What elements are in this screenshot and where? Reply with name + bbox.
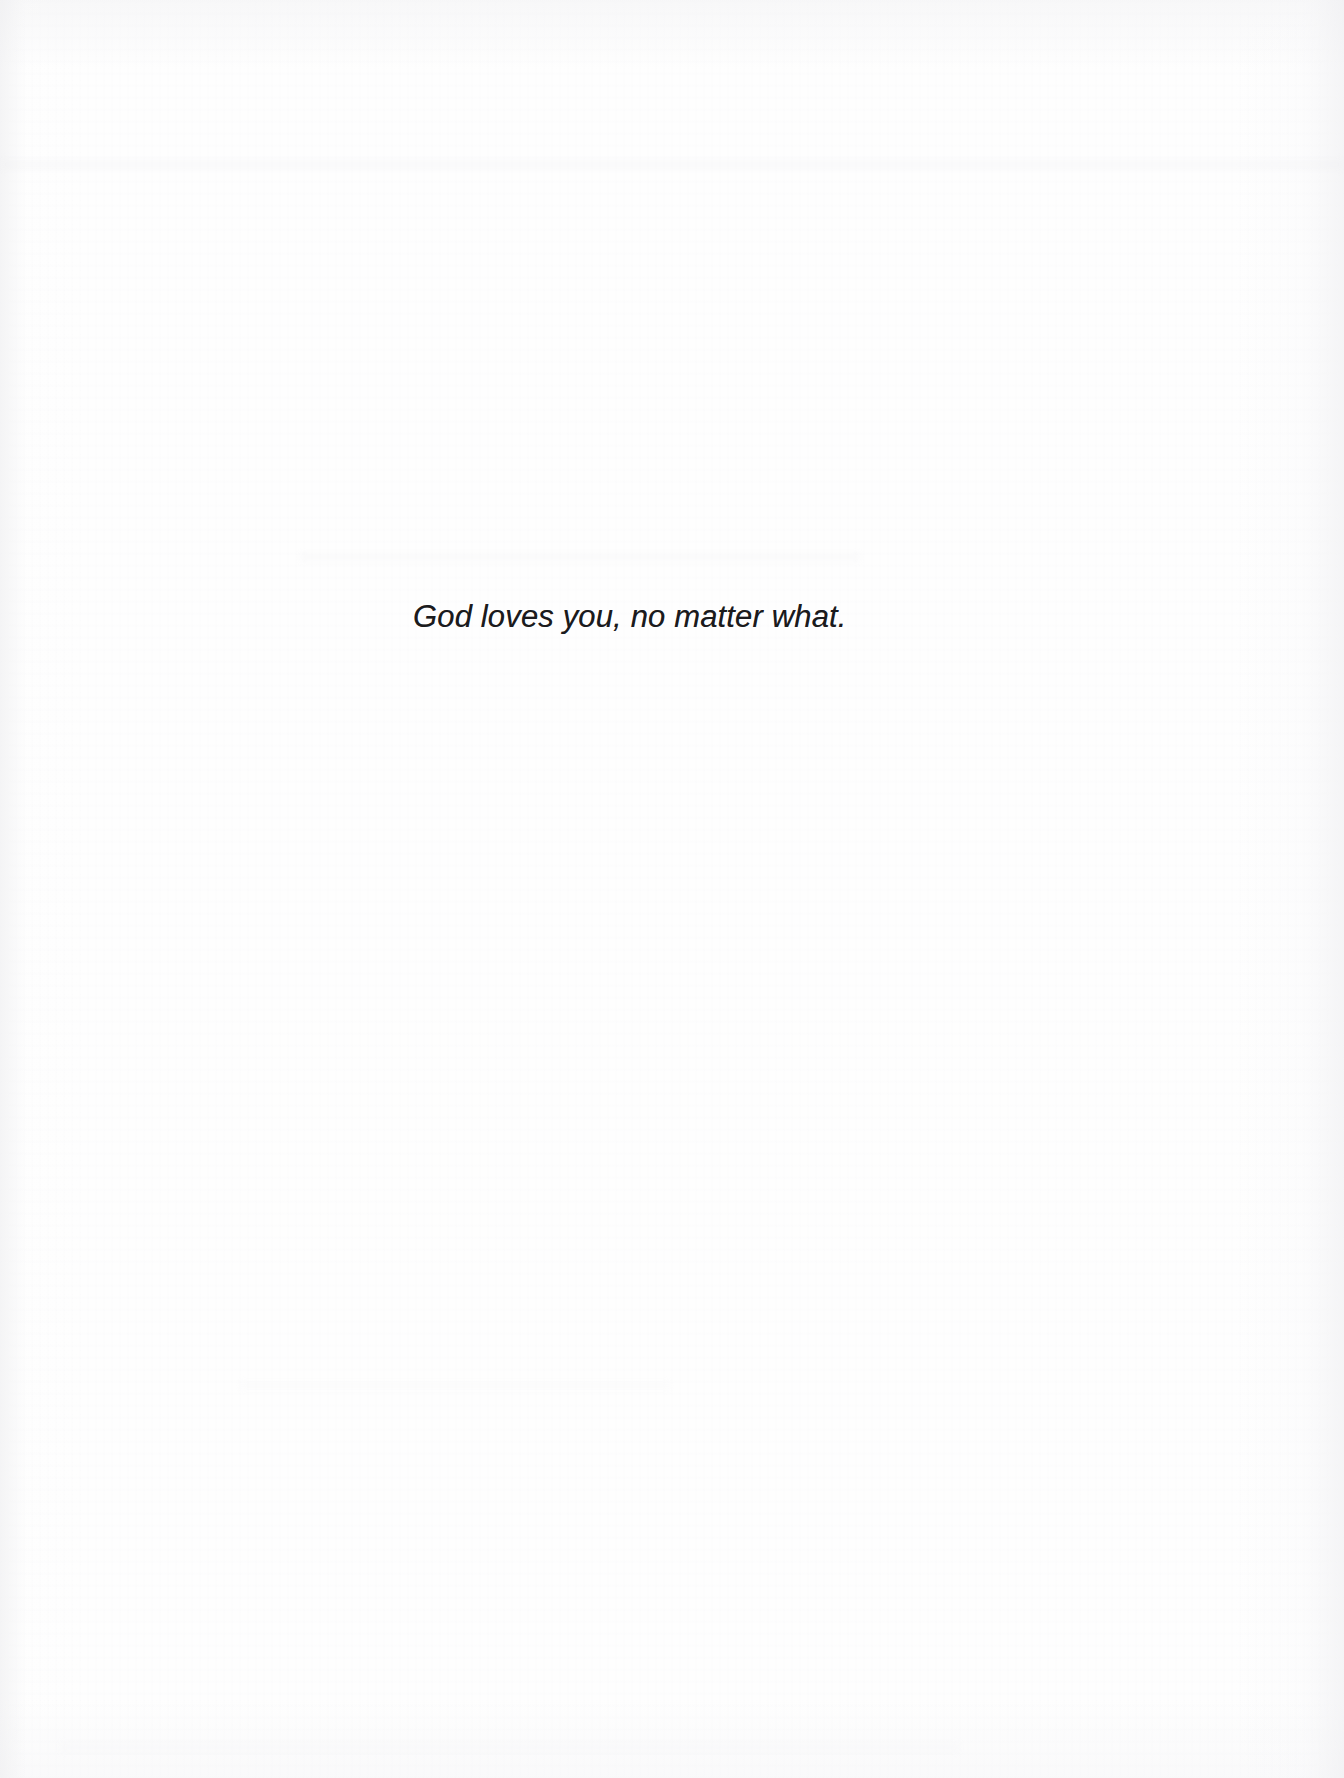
scan-bleedthrough-band-lower (240, 1382, 670, 1389)
scan-bleedthrough-band-top (0, 160, 1344, 169)
scanned-page: God loves you, no matter what. (0, 0, 1344, 1778)
scan-grain-overlay (0, 0, 1344, 1778)
page-quote-text: God loves you, no matter what. (413, 599, 883, 635)
scan-bleedthrough-band-bottom (60, 1742, 960, 1752)
scan-bleedthrough-band-middle (300, 553, 860, 561)
